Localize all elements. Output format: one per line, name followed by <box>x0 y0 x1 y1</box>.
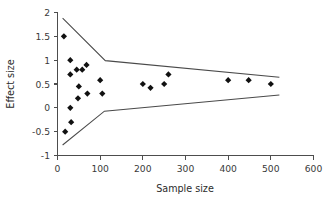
y-axis-tick-labels: 2 1.5 1 0.5 0 -0.5 -1 <box>32 7 50 161</box>
y-tick-label-2: 2 <box>44 7 50 18</box>
y-tick-label-0: 0 <box>44 102 50 113</box>
data-point <box>61 33 67 39</box>
x-axis-title: Sample size <box>156 183 214 194</box>
data-point <box>161 81 167 87</box>
x-axis-tick-labels: 0 100 200 300 400 500 600 <box>55 163 323 174</box>
data-point <box>97 77 103 83</box>
y-tick-label-neg1: -1 <box>41 150 50 161</box>
x-tick-label-400: 400 <box>219 163 237 174</box>
x-tick-label-600: 600 <box>305 163 323 174</box>
x-tick-label-200: 200 <box>134 163 152 174</box>
funnel-lower-boundary <box>63 95 280 145</box>
data-point <box>67 105 73 111</box>
x-tick-label-0: 0 <box>55 163 61 174</box>
data-point <box>75 95 81 101</box>
data-point <box>84 90 90 96</box>
y-tick-label-neg0.5: -0.5 <box>32 126 50 137</box>
data-point <box>147 85 153 91</box>
data-point <box>67 57 73 63</box>
data-point <box>76 83 82 89</box>
data-point <box>268 81 274 87</box>
data-point <box>68 119 74 125</box>
y-axis-ticks <box>54 13 58 156</box>
data-point <box>74 67 80 73</box>
data-point <box>62 129 68 135</box>
x-tick-label-500: 500 <box>262 163 280 174</box>
funnel-upper-boundary <box>63 18 280 77</box>
data-point <box>79 67 85 73</box>
x-axis-ticks <box>58 156 314 160</box>
data-point <box>165 71 171 77</box>
y-axis-title: Effect size <box>5 59 16 108</box>
y-tick-label-1: 1 <box>44 55 50 66</box>
funnel-plot-chart: 2 1.5 1 0.5 0 -0.5 -1 0 100 200 300 400 … <box>0 0 327 209</box>
data-point <box>99 90 105 96</box>
data-point <box>225 77 231 83</box>
x-tick-label-100: 100 <box>91 163 109 174</box>
y-tick-label-0.5: 0.5 <box>35 79 50 90</box>
chart-canvas: 2 1.5 1 0.5 0 -0.5 -1 0 100 200 300 400 … <box>0 0 327 209</box>
data-point <box>83 62 89 68</box>
data-point <box>246 77 252 83</box>
y-tick-label-1.5: 1.5 <box>35 31 50 42</box>
data-point <box>140 81 146 87</box>
x-tick-label-300: 300 <box>177 163 195 174</box>
data-point <box>67 71 73 77</box>
